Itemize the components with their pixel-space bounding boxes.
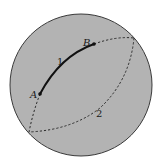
path-1-label: 1 — [57, 56, 63, 67]
sphere-diagram: A B 1 2 — [0, 0, 160, 167]
point-a-label: A — [29, 89, 37, 100]
point-b-label: B — [82, 37, 90, 48]
point-b-marker — [92, 42, 96, 46]
diagram-stage: A B 1 2 — [0, 0, 160, 167]
path-2-label: 2 — [96, 108, 102, 119]
point-a-marker — [38, 92, 42, 96]
sphere — [10, 14, 152, 156]
